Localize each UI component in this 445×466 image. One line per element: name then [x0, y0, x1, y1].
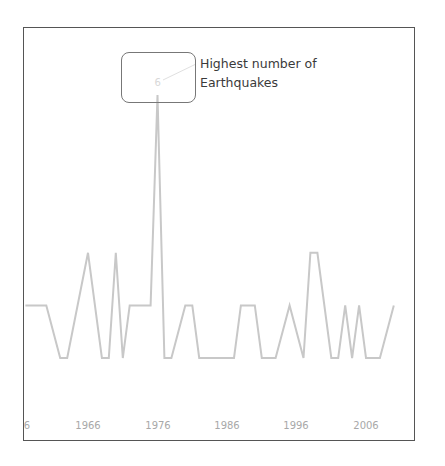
- earthquake-count-line: [25, 95, 393, 358]
- x-tick-label: 1966: [75, 420, 100, 431]
- peak-value-label: 6: [155, 77, 161, 88]
- annotation-text: Highest number of Earthquakes: [200, 54, 317, 92]
- x-tick-label: 1996: [283, 420, 308, 431]
- x-tick-label: 6: [24, 420, 30, 431]
- x-tick-label: 1976: [145, 420, 170, 431]
- x-tick-label: 1986: [214, 420, 239, 431]
- x-tick-label: 2006: [353, 420, 378, 431]
